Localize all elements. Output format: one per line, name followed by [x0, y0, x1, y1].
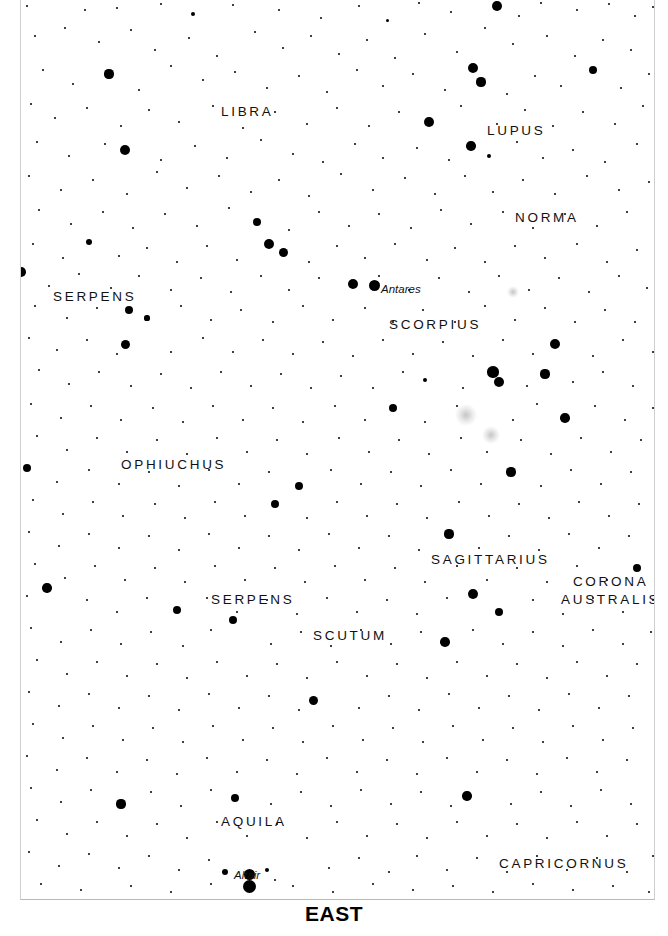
constellation-label-serpens-cauda: SERPENS [211, 591, 294, 609]
star-marker [654, 773, 655, 775]
constellation-label-line: SERPENS [211, 591, 294, 609]
constellation-label-corona-australis: CORONAAUSTRALIS [561, 573, 655, 609]
constellation-label-line: AQUILA [221, 813, 287, 831]
constellation-label-line: CORONA [561, 573, 655, 591]
constellation-label-lupus: LUPUS [487, 122, 546, 140]
constellation-label-capricornus: CAPRICORNUS [499, 855, 628, 873]
constellation-label-line: NORMA [515, 209, 579, 227]
constellation-label-ophiuchus: OPHIUCHUS [121, 456, 226, 474]
constellation-label-sagittarius: SAGITTARIUS [431, 551, 550, 569]
star-label-altair: Altair [234, 869, 260, 881]
star-label-antares: Antares [381, 283, 421, 295]
star-marker [654, 223, 655, 225]
constellation-label-line: SCUTUM [313, 627, 387, 645]
constellation-label-line: SCORPIUS [389, 316, 481, 334]
star-chart: AntaresAltairLIBRALUPUSNORMASERPENSSCORP… [0, 0, 668, 936]
constellation-label-line: SERPENS [53, 288, 136, 306]
constellation-label-line: AUSTRALIS [561, 591, 655, 609]
constellation-label-line: LUPUS [487, 122, 546, 140]
label-layer: AntaresAltairLIBRALUPUSNORMASERPENSSCORP… [21, 0, 654, 899]
constellation-label-norma: NORMA [515, 209, 579, 227]
constellation-label-scutum: SCUTUM [313, 627, 387, 645]
direction-label-east: EAST [0, 902, 668, 926]
constellation-label-line: LIBRA [221, 103, 274, 121]
constellation-label-line: SAGITTARIUS [431, 551, 550, 569]
constellation-label-scorpius: SCORPIUS [389, 316, 481, 334]
constellation-label-serpens-caput: SERPENS [53, 288, 136, 306]
sky-field-frame: AntaresAltairLIBRALUPUSNORMASERPENSSCORP… [20, 0, 655, 900]
constellation-label-line: CAPRICORNUS [499, 855, 628, 873]
constellation-label-aquila: AQUILA [221, 813, 287, 831]
constellation-label-line: OPHIUCHUS [121, 456, 226, 474]
constellation-label-libra: LIBRA [221, 103, 274, 121]
